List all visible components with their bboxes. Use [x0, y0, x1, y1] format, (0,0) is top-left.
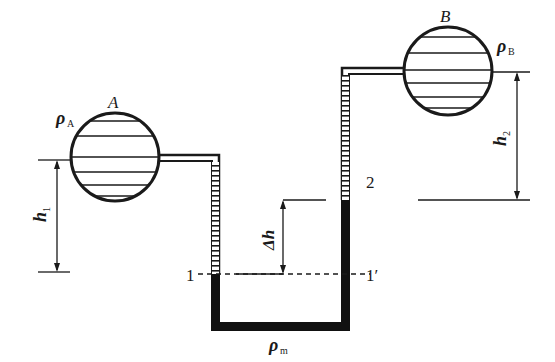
- vessel-b-label: B: [440, 7, 451, 26]
- h2-label: h 2: [490, 131, 512, 146]
- dimension-dh: [280, 200, 326, 274]
- density-a-label: ρ A: [55, 108, 75, 129]
- density-b-label: ρ B: [496, 36, 515, 57]
- level-1-label: 1: [186, 266, 195, 285]
- point-2-label: 2: [366, 173, 375, 192]
- svg-text:B: B: [508, 46, 515, 57]
- svg-text:Δh: Δh: [259, 230, 278, 251]
- density-m-label: ρ m: [268, 335, 288, 356]
- svg-text:ρ: ρ: [55, 108, 65, 128]
- vessel-b: [400, 27, 500, 115]
- manometer-diagram: A B ρ A ρ B ρ m h 1 h 2 Δh 1 1′ 2: [0, 0, 555, 362]
- svg-text:h: h: [490, 136, 510, 146]
- vessel-a: [60, 113, 170, 201]
- vessel-a-label: A: [107, 93, 119, 112]
- svg-text:m: m: [280, 345, 288, 356]
- svg-text:1: 1: [41, 207, 52, 212]
- dimension-h2: [418, 72, 530, 200]
- left-pipe: [159, 155, 219, 275]
- svg-text:A: A: [67, 118, 75, 129]
- h1-label: h 1: [30, 207, 52, 222]
- dh-label: Δh: [259, 230, 278, 251]
- level-1prime-label: 1′: [366, 266, 378, 285]
- svg-text:ρ: ρ: [496, 36, 506, 56]
- svg-text:h: h: [30, 212, 50, 222]
- svg-text:ρ: ρ: [268, 335, 278, 355]
- svg-text:2: 2: [501, 131, 512, 136]
